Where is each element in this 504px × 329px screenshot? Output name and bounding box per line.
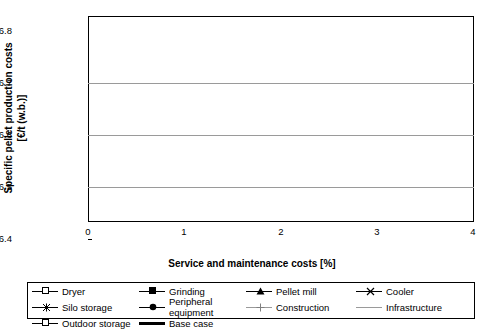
filled-triangle-marker-icon [246,286,272,296]
legend-item-grinding: Grinding [139,286,246,297]
legend-row-3: Outdoor storage Base case [28,315,474,329]
gridline-136.5 [88,187,474,188]
gridline-136.6 [88,135,474,136]
y-tick-136.6: 136.6 [0,129,12,140]
y-axis-title-line2: [€/t (w.b.)] [15,18,28,218]
cross-x-marker-icon [356,286,382,296]
legend-item-infrastructure: Infrastructure [356,302,442,313]
y-tickmark-bottom [88,239,92,240]
x-tick-3: 3 [362,226,392,237]
open-square-small-marker-icon [32,318,58,328]
legend-item-cooler: Cooler [356,286,414,297]
thick-line-marker-icon [139,318,165,328]
y-tickmark-top [88,16,92,17]
legend-row-1: Dryer Grinding Pellet mill [28,283,474,299]
legend-label: Pellet mill [276,286,317,297]
legend-label: Dryer [62,286,85,297]
chart-legend: Dryer Grinding Pellet mill [27,282,475,319]
legend-label: Silo storage [62,302,112,313]
legend-item-pellet-mill: Pellet mill [246,286,356,297]
legend-item-construction: Construction [246,302,356,313]
x-tick-0: 0 [73,226,103,237]
plot-area [88,16,474,222]
legend-item-outdoor-storage: Outdoor storage [32,318,139,329]
plus-marker-icon [246,302,272,312]
gridline-136.7 [88,83,474,84]
legend-label: Base case [169,318,213,329]
y-tick-136.4: 136.4 [0,233,12,244]
legend-label: Infrastructure [386,302,442,313]
legend-item-base-case: Base case [139,318,213,329]
legend-row-2: Silo storage Peripheral equipment Constr… [28,299,474,315]
x-tick-1: 1 [169,226,199,237]
open-square-marker-icon [32,286,58,296]
y-tick-136.5: 136.5 [0,181,12,192]
legend-item-dryer: Dryer [32,286,139,297]
legend-label: Peripheral equipment [169,296,246,318]
y-tick-136.7: 136.7 [0,77,12,88]
legend-item-silo-storage: Silo storage [32,302,139,313]
x-tick-2: 2 [266,226,296,237]
y-tick-136.8: 136.8 [0,25,12,36]
legend-item-peripheral-equipment: Peripheral equipment [139,296,246,318]
x-axis-title: Service and maintenance costs [%] [0,258,504,269]
legend-label: Grinding [169,286,205,297]
legend-label: Outdoor storage [62,318,131,329]
chart-figure: Specific pellet production costs [€/t (w… [0,0,504,329]
x-tick-4: 4 [458,226,488,237]
plain-line-marker-icon [356,302,382,312]
legend-label: Cooler [386,286,414,297]
filled-square-marker-icon [139,286,165,296]
filled-circle-marker-icon [139,302,165,312]
legend-label: Construction [276,302,329,313]
plot-frame [88,16,474,222]
star-x-marker-icon [32,302,58,312]
